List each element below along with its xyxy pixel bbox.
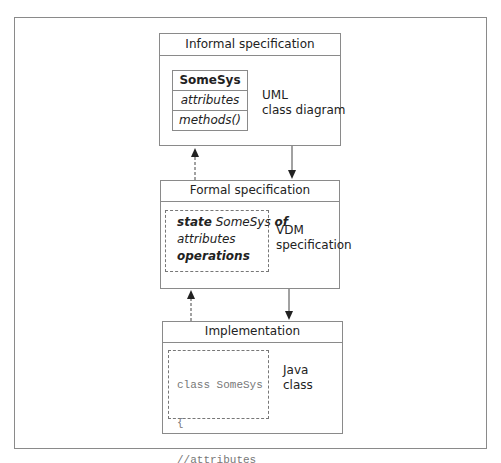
arrow-formal-to-informal-dashed xyxy=(191,148,199,180)
connector-arrows xyxy=(0,0,501,463)
arrow-formal-to-implementation xyxy=(285,289,293,320)
arrow-implementation-to-formal-dashed xyxy=(187,290,195,321)
arrow-informal-to-formal xyxy=(288,146,296,179)
